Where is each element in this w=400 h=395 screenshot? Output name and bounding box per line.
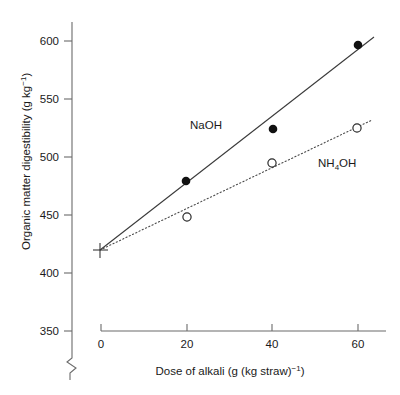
y-tick-label-400: 400 xyxy=(40,267,59,279)
nh4oh-point-59 xyxy=(353,124,361,132)
series-label-nh4oh-main: NH xyxy=(318,157,335,169)
x-tick-label-0: 0 xyxy=(98,338,104,350)
x-tick-label-40: 40 xyxy=(266,338,279,350)
naoh-point-20 xyxy=(182,177,191,186)
x-axis-title-tail: ) xyxy=(301,365,305,377)
y-tick-label-550: 550 xyxy=(40,93,59,105)
y-tick-label-600: 600 xyxy=(40,35,59,47)
chart-figure: 600 550 500 450 400 350 0 20 40 60 xyxy=(0,0,400,395)
naoh-point-39 xyxy=(269,125,278,134)
x-tick-label-60: 60 xyxy=(352,338,365,350)
y-tick-label-450: 450 xyxy=(40,209,59,221)
nh4oh-fit-line xyxy=(100,120,372,250)
y-ticks xyxy=(64,41,72,331)
series-label-nh4oh-tail: OH xyxy=(339,157,356,169)
y-tick-labels: 600 550 500 450 400 350 xyxy=(40,35,59,337)
x-axis-title-main: Dose of alkali (g (kg straw) xyxy=(155,365,291,377)
nh4oh-point-20 xyxy=(183,213,191,221)
x-tick-label-20: 20 xyxy=(181,338,194,350)
x-ticks xyxy=(101,324,358,331)
y-axis-title-main: Organic matter digestibility (g kg xyxy=(20,86,32,250)
y-axis-title: Organic matter digestibility (g kg−1) xyxy=(19,73,32,250)
y-tick-label-350: 350 xyxy=(40,325,59,337)
series-label-nh4oh: NH4OH xyxy=(318,157,356,172)
naoh-fit-line xyxy=(100,37,374,250)
y-tick-label-500: 500 xyxy=(40,151,59,163)
nh4oh-point-39 xyxy=(268,159,276,167)
y-axis-break-icon xyxy=(67,350,76,380)
series-label-naoh: NaOH xyxy=(190,119,222,131)
naoh-point-59 xyxy=(354,41,363,50)
x-tick-labels: 0 20 40 60 xyxy=(98,338,365,350)
y-axis-title-tail: ) xyxy=(20,73,32,77)
x-axis-title: Dose of alkali (g (kg straw)−1) xyxy=(155,364,304,377)
chart-canvas: 600 550 500 450 400 350 0 20 40 60 xyxy=(0,0,400,395)
